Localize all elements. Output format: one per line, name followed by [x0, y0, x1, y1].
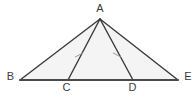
- geometry-figure: A B C D E: [0, 0, 195, 95]
- vertex-label-D: D: [126, 82, 139, 93]
- vertex-label-A: A: [93, 3, 107, 14]
- vertex-label-E: E: [182, 71, 194, 82]
- geometry-canvas: [0, 0, 195, 95]
- triangle-fill: [20, 19, 178, 80]
- vertex-label-B: B: [4, 71, 17, 82]
- vertex-label-C: C: [60, 82, 73, 93]
